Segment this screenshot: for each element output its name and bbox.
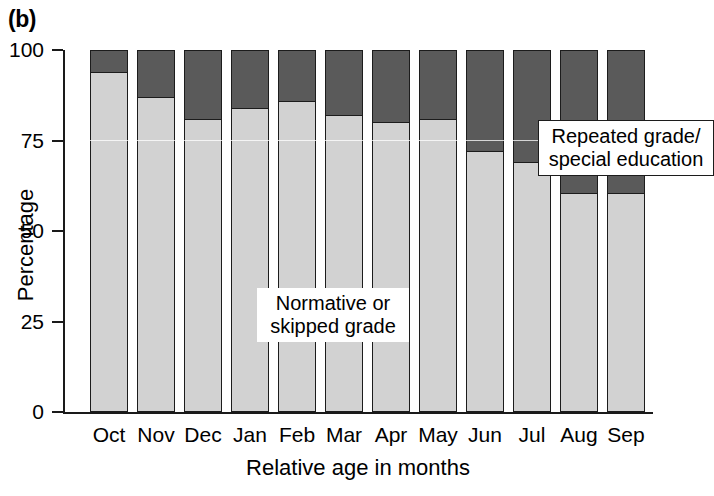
bar-nov[interactable] — [137, 50, 175, 412]
y-axis-line — [63, 50, 65, 414]
bar-segment-repeated-dec — [185, 51, 221, 120]
y-tick-25 — [52, 321, 63, 323]
bar-feb[interactable] — [278, 50, 316, 412]
bar-segment-repeated-nov — [138, 51, 174, 98]
y-tick-label-75: 75 — [0, 130, 44, 151]
annotation-repeated-grade: Repeated grade/ special education — [538, 120, 714, 176]
y-tick-100 — [52, 49, 63, 51]
panel-label: (b) — [8, 6, 36, 33]
bar-segment-repeated-apr — [373, 51, 409, 123]
plot-area: 0255075100 OctNovDecJanFebMarAprMayJunJu… — [63, 50, 653, 414]
bar-apr[interactable] — [372, 50, 410, 412]
bar-jan[interactable] — [231, 50, 269, 412]
annotation-normative-line1: Normative or — [265, 292, 401, 315]
bar-dec[interactable] — [184, 50, 222, 412]
x-axis-line — [63, 412, 653, 414]
y-tick-label-50: 50 — [0, 220, 44, 241]
bar-aug[interactable] — [560, 50, 598, 412]
bar-jul[interactable] — [513, 50, 551, 412]
y-tick-label-25: 25 — [0, 311, 44, 332]
annotation-repeated-line1: Repeated grade/ — [547, 125, 705, 148]
x-axis-title: Relative age in months — [63, 455, 653, 481]
x-tick-label-sep: Sep — [596, 424, 656, 445]
bar-segment-repeated-mar — [326, 51, 362, 116]
bar-may[interactable] — [419, 50, 457, 412]
y-tick-50 — [52, 230, 63, 232]
bar-segment-repeated-jan — [232, 51, 268, 109]
y-tick-0 — [52, 411, 63, 413]
bar-segment-repeated-may — [420, 51, 456, 120]
bar-sep[interactable] — [607, 50, 645, 412]
bar-segment-repeated-feb — [279, 51, 315, 102]
bar-mar[interactable] — [325, 50, 363, 412]
bar-oct[interactable] — [90, 50, 128, 412]
bar-segment-repeated-oct — [91, 51, 127, 73]
bar-segment-repeated-jun — [467, 51, 503, 152]
y-tick-75 — [52, 140, 63, 142]
y-tick-label-100: 100 — [0, 39, 44, 60]
annotation-repeated-line2: special education — [547, 148, 705, 171]
y-tick-label-0: 0 — [0, 401, 44, 422]
annotation-normative-line2: skipped grade — [265, 315, 401, 338]
annotation-normative-grade: Normative or skipped grade — [257, 288, 409, 342]
bar-jun[interactable] — [466, 50, 504, 412]
